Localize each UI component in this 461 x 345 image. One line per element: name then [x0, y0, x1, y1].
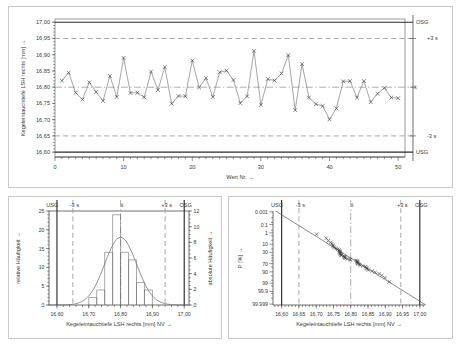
y-tick-label-right: 12	[194, 208, 200, 214]
histogram-bar	[89, 297, 97, 305]
y-axis-label-left: relative Häufigkeit →	[15, 232, 21, 284]
reference-label--3 s: -3 s	[70, 202, 80, 208]
reference-label-OSG: OSG	[416, 19, 428, 25]
probability-plot-panel: 99.99999.9999070301010.10.001P [%] →16,6…	[228, 196, 453, 339]
x-tick-label: 16,80	[344, 311, 357, 317]
data-markers	[60, 49, 400, 121]
y-tick-label: 10	[262, 241, 268, 247]
y-tick-label: 0.1	[261, 222, 268, 228]
histogram-bar	[129, 260, 137, 305]
x-tick-label: 20	[189, 164, 195, 170]
y-tick-label-left: 20	[39, 227, 45, 233]
normal-distribution-curve	[49, 237, 189, 305]
reference-label--3 s: -3 s	[427, 133, 437, 139]
y-tick-label-left: 5	[42, 283, 45, 289]
y-axis-label: Kegeleintauchtiefe LSH rechts [mm] →	[20, 40, 26, 136]
x-tick-label: 0	[53, 164, 56, 170]
x-tick-label: 17,00	[178, 311, 191, 317]
x-tick-label: 16,90	[379, 311, 392, 317]
run-chart-svg: 16,6016,6516,7016,7516,8016,8516,9016,95…	[9, 7, 452, 187]
run-chart-panel: 16,6016,6516,7016,7516,8016,8516,9016,95…	[8, 6, 453, 188]
y-tick-label: 90	[262, 269, 268, 275]
x-tick-label: 30	[258, 164, 264, 170]
reference-label-+3 s: +3 s	[427, 35, 438, 41]
spc-report: 16,6016,6516,7016,7516,8016,8516,9016,95…	[0, 0, 461, 345]
x-tick-label: 16,95	[396, 311, 409, 317]
x-tick-label: 16,75	[327, 311, 340, 317]
y-tick-label: 16,65	[36, 133, 50, 139]
y-tick-label-left: 0	[42, 302, 45, 308]
y-axis-label-right: absolute Häufigkeit →	[207, 231, 213, 286]
x-tick-label: 50	[395, 164, 401, 170]
y-axis-label: P [%] →	[237, 248, 243, 268]
x-tick-label: 16,65	[292, 311, 305, 317]
y-tick-label-right: 6	[194, 255, 197, 261]
reference-label-USG: USG	[416, 149, 428, 155]
reference-label-x̄: x̄	[121, 202, 124, 208]
histogram-svg: 051015202502468101216,6016,7016,8016,901…	[9, 197, 221, 338]
y-tick-label: 16,70	[36, 117, 50, 123]
x-tick-label: 16,60	[275, 311, 288, 317]
reference-label-USG: USG	[46, 202, 58, 208]
data-series-line	[62, 51, 398, 120]
y-tick-label: 30	[262, 249, 268, 255]
x-tick-label: 16,70	[310, 311, 323, 317]
histogram-bar	[137, 282, 145, 305]
y-tick-label-right: 0	[194, 302, 197, 308]
y-tick-label: 99	[262, 280, 268, 286]
x-tick-label: 40	[326, 164, 332, 170]
y-tick-label: 16,90	[36, 52, 50, 58]
y-tick-label-right: 4	[194, 271, 197, 277]
probability-plot-svg: 99.99999.9999070301010.10.001P [%] →16,6…	[229, 197, 452, 338]
y-tick-label-right: 10	[194, 224, 200, 230]
histogram-panel: 051015202502468101216,6016,7016,8016,901…	[8, 196, 222, 339]
x-tick-label: 16,80	[114, 311, 127, 317]
y-tick-label: 99.999	[252, 301, 268, 307]
reference-label-OSG: OSG	[180, 202, 192, 208]
y-tick-label: 16,85	[36, 68, 50, 74]
x-tick-label: 10	[121, 164, 127, 170]
x-tick-label: 16,60	[50, 311, 63, 317]
y-tick-label: 16,80	[36, 84, 50, 90]
x-tick-label: 16,70	[82, 311, 95, 317]
fit-line	[276, 211, 426, 305]
reference-label-OSG: OSG	[415, 202, 427, 208]
histogram-bar	[113, 215, 121, 305]
reference-label-USG: USG	[271, 202, 283, 208]
y-tick-label: 70	[262, 261, 268, 267]
x-tick-label: 17,00	[413, 311, 426, 317]
y-tick-label: 99.9	[258, 288, 268, 294]
reference-label-+3 s: +3 s	[161, 202, 172, 208]
x-tick-label: 16,85	[362, 311, 375, 317]
x-tick-label: 16,90	[146, 311, 159, 317]
y-tick-label: 16,95	[36, 35, 50, 41]
y-tick-label: 1	[265, 230, 268, 236]
reference-label-x̄: x̄	[351, 202, 354, 208]
x-axis-label: Kegeleintauchtiefe LSH rechts [mm] NV →	[66, 321, 172, 327]
y-tick-label-right: 8	[194, 239, 197, 245]
y-tick-label: 17,00	[36, 19, 50, 25]
y-tick-label-right: 2	[194, 286, 197, 292]
y-tick-label-left: 10	[39, 264, 45, 270]
reference-label--3 s: -3 s	[296, 202, 306, 208]
histogram-bar	[144, 290, 152, 305]
y-tick-label: 16,60	[36, 149, 50, 155]
histogram-bar	[97, 290, 105, 305]
histogram-bar	[121, 252, 129, 305]
reference-label-+3 s: +3 s	[397, 202, 408, 208]
y-tick-label: 16,75	[36, 100, 50, 106]
x-axis-label: Wert Nr. →	[226, 174, 254, 180]
y-tick-label: 0.001	[255, 209, 268, 215]
y-tick-label-left: 15	[39, 246, 45, 252]
x-axis-label: Kegeleintauchtiefe LSH rechts [mm] NV →	[296, 321, 402, 327]
y-tick-label-left: 25	[39, 208, 45, 214]
